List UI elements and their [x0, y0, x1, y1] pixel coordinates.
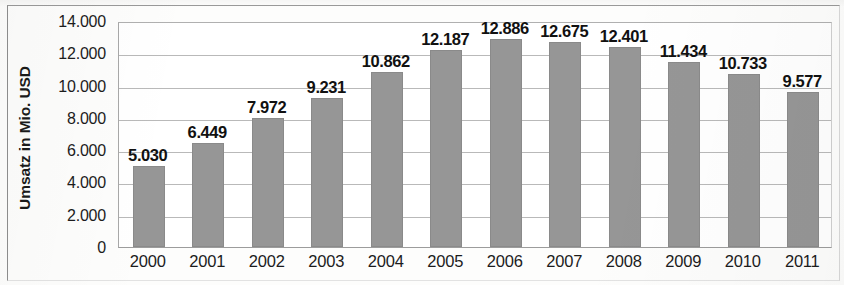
- y-axis-title-text: Umsatz in Mio. USD: [16, 66, 34, 210]
- bar[interactable]: [192, 143, 224, 247]
- x-axis-tick-label: 2005: [427, 252, 463, 271]
- y-axis-tick-label: 6.000: [67, 142, 106, 160]
- y-axis-tick-label: 12.000: [58, 45, 106, 63]
- x-axis-tick-label: 2007: [546, 252, 582, 271]
- bar-slot: [179, 23, 239, 247]
- x-axis-tick-label: 2000: [130, 252, 166, 271]
- bar-slot: [119, 23, 179, 247]
- y-axis-tick-label: 8.000: [67, 110, 106, 128]
- x-axis-tick-label: 2001: [189, 252, 225, 271]
- x-axis-tick-labels: 2000200120022003200420052006200720082009…: [118, 252, 832, 280]
- bar[interactable]: [252, 118, 284, 247]
- x-axis-tick-label: 2002: [249, 252, 285, 271]
- y-axis-tick-label: 2.000: [67, 207, 106, 225]
- y-axis-tick-labels: 02.0004.0006.0008.00010.00012.00014.000: [34, 22, 112, 248]
- bar[interactable]: [609, 47, 641, 247]
- bar[interactable]: [787, 92, 819, 247]
- bar-slot: [476, 23, 536, 247]
- bar-slot: [298, 23, 358, 247]
- x-axis-tick-label: 2003: [308, 252, 344, 271]
- y-axis-tick-label: 0: [97, 239, 106, 257]
- bar[interactable]: [311, 98, 343, 247]
- bar-slot: [417, 23, 477, 247]
- bar-chart-figure: Umsatz in Mio. USD 02.0004.0006.0008.000…: [0, 0, 844, 285]
- bar-slot: [655, 23, 715, 247]
- x-axis-tick-label: 2009: [665, 252, 701, 271]
- x-axis-tick-label: 2006: [487, 252, 523, 271]
- bar-slot: [714, 23, 774, 247]
- bar-slot: [357, 23, 417, 247]
- x-axis-tick-label: 2010: [725, 252, 761, 271]
- y-axis-tick-label: 4.000: [67, 174, 106, 192]
- bar[interactable]: [668, 62, 700, 247]
- bar-slot: [595, 23, 655, 247]
- bar-slot: [238, 23, 298, 247]
- bar[interactable]: [549, 42, 581, 247]
- plot-area: [118, 22, 832, 248]
- bar-slot: [536, 23, 596, 247]
- bar[interactable]: [133, 166, 165, 247]
- y-axis-title: Umsatz in Mio. USD: [14, 32, 36, 244]
- x-axis-tick-label: 2008: [606, 252, 642, 271]
- bar-slot: [774, 23, 834, 247]
- x-axis-tick-label: 2004: [368, 252, 404, 271]
- bar[interactable]: [490, 39, 522, 247]
- x-axis-tick-label: 2011: [785, 252, 820, 271]
- bar[interactable]: [371, 72, 403, 247]
- bar[interactable]: [430, 50, 462, 247]
- y-axis-tick-label: 14.000: [58, 13, 106, 31]
- bars-layer: [119, 23, 831, 247]
- y-axis-tick-label: 10.000: [58, 78, 106, 96]
- bar[interactable]: [728, 74, 760, 247]
